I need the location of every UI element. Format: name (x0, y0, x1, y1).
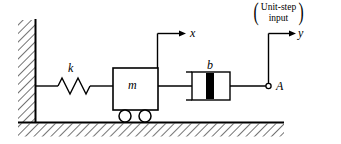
y-displacement-label: y (298, 27, 303, 39)
mass-m (113, 68, 158, 122)
mass-wheel-right (139, 110, 151, 122)
point-A-label: A (276, 80, 283, 92)
mass-wheel-left (119, 110, 131, 122)
annotation-close-paren: ) (298, 2, 303, 23)
spring-label: k (68, 62, 73, 74)
spring-k (35, 78, 113, 94)
x-displacement-arrow (158, 30, 187, 68)
mass-label: m (128, 79, 137, 91)
mechanical-diagram: k m b x y A ( Unit-step input ) (0, 0, 341, 144)
point-A-marker (266, 83, 271, 88)
wall-hatching (18, 20, 35, 122)
annotation-line-2: input (261, 13, 296, 24)
fixed-wall (18, 19, 36, 123)
annotation-line-1: Unit-step (261, 2, 296, 13)
damper-piston-plate (206, 73, 214, 99)
x-arrow-head (179, 30, 186, 36)
ground-hatching (18, 124, 284, 137)
damper-label: b (207, 59, 213, 71)
spring-coil (58, 78, 90, 94)
damper-b (158, 72, 266, 100)
x-displacement-label: x (190, 27, 195, 39)
unit-step-input-annotation: ( Unit-step input ) (252, 2, 305, 23)
annotation-text: Unit-step input (260, 2, 296, 23)
y-arrow-head (289, 30, 296, 36)
ground-surface (18, 123, 284, 137)
annotation-open-paren: ( (254, 2, 259, 23)
